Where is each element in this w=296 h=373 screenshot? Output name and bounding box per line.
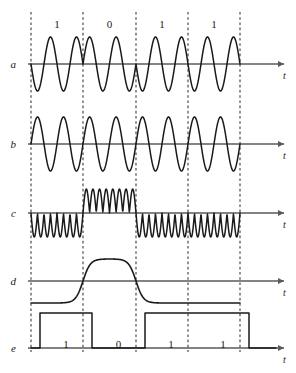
psk-demodulation-diagram	[0, 0, 296, 373]
row-label-e: e	[0, 342, 16, 354]
output-bit-3: 1	[213, 338, 233, 350]
row-label-b: b	[0, 138, 16, 150]
time-axis-label-a: t	[283, 70, 286, 81]
output-bit-1: 0	[109, 338, 129, 350]
axis-arrowhead	[278, 210, 284, 216]
input-bit-2: 1	[152, 18, 172, 30]
axis-a	[28, 61, 284, 67]
axis-b	[28, 141, 284, 147]
waveform-row-a	[28, 37, 284, 91]
axis-d	[28, 278, 284, 284]
waveform-row-c	[28, 189, 284, 237]
axis-arrowhead	[278, 345, 284, 351]
axis-arrowhead	[278, 278, 284, 284]
input-bit-3: 1	[204, 18, 224, 30]
input-bit-0: 1	[47, 18, 67, 30]
time-axis-label-b: t	[283, 150, 286, 161]
time-axis-label-e: t	[283, 354, 286, 365]
waveform-row-b	[28, 117, 284, 171]
axis-arrowhead	[278, 61, 284, 67]
time-axis-label-c: t	[283, 219, 286, 230]
output-bit-0: 1	[56, 338, 76, 350]
time-axis-label-d: t	[283, 287, 286, 298]
row-label-c: c	[0, 207, 16, 219]
axis-arrowhead	[278, 141, 284, 147]
input-bit-1: 0	[100, 18, 120, 30]
row-label-a: a	[0, 58, 16, 70]
output-bit-2: 1	[161, 338, 181, 350]
row-label-d: d	[0, 275, 16, 287]
waveform-row-d	[28, 259, 284, 303]
